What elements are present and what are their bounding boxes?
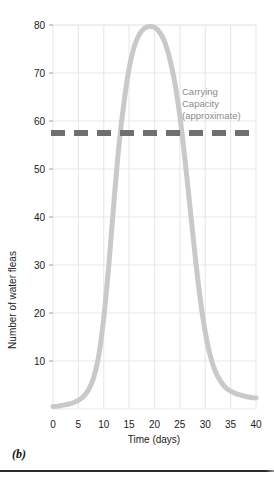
x-tick-label: 20: [149, 419, 161, 430]
panel-caption: (b): [12, 447, 26, 462]
y-tick-label: 50: [34, 164, 46, 175]
carrying-capacity-annotation-line-2: Capacity: [182, 98, 219, 109]
x-tick-label: 0: [50, 419, 56, 430]
x-tick-label: 35: [225, 419, 237, 430]
x-tick-label: 5: [76, 419, 82, 430]
x-axis-title: Time (days): [128, 434, 180, 445]
x-tick-label: 40: [250, 419, 262, 430]
y-tick-label: 20: [34, 308, 46, 319]
y-tick-label: 40: [34, 212, 46, 223]
x-tick-label: 25: [174, 419, 186, 430]
y-tick-label: 60: [34, 116, 46, 127]
population-growth-chart: 1020304050607080 0510152025303540 Time (…: [0, 0, 274, 481]
carrying-capacity-annotation-line-1: Carrying: [182, 86, 218, 97]
figure-panel-b: 1020304050607080 0510152025303540 Time (…: [0, 0, 274, 481]
x-tick-label: 30: [200, 419, 212, 430]
y-axis-title: Number of water fleas: [7, 251, 18, 349]
y-tick-label: 70: [34, 68, 46, 79]
carrying-capacity-annotation-line-3: (approximate): [182, 110, 241, 121]
figure-bottom-rule: [0, 470, 274, 472]
x-tick-label: 10: [98, 419, 110, 430]
y-tick-label: 10: [34, 356, 46, 367]
x-tick-label: 15: [124, 419, 136, 430]
y-tick-label: 30: [34, 260, 46, 271]
y-tick-label: 80: [34, 20, 46, 31]
